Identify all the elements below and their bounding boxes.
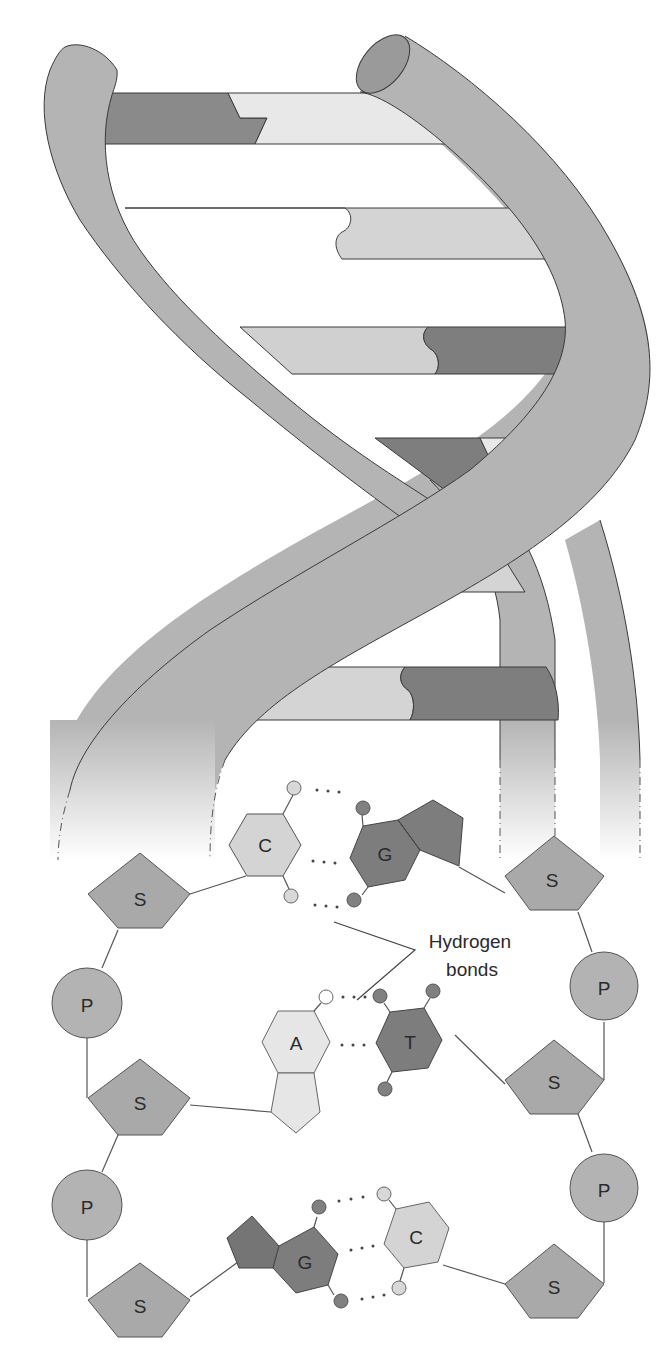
- atom: [319, 990, 333, 1004]
- atom: [426, 984, 440, 998]
- atom: [378, 1082, 392, 1096]
- right-phosphate-1: P: [570, 952, 638, 1020]
- atom: [356, 801, 370, 815]
- hydrogen-bonds: [312, 789, 341, 909]
- atom: [347, 893, 361, 907]
- left-phosphate-2: P: [52, 1170, 122, 1240]
- atom: [373, 989, 387, 1003]
- base-label-a: A: [290, 1033, 303, 1054]
- base-label-c: C: [258, 835, 272, 856]
- right-phosphate-2: P: [570, 1154, 638, 1222]
- base-label-g: G: [298, 1252, 313, 1273]
- sugar-label: S: [548, 1277, 561, 1298]
- phosphate-label: P: [598, 1180, 611, 1201]
- base-pair-3: G C: [227, 1187, 449, 1308]
- phosphate-label: P: [81, 995, 94, 1016]
- sugar-label: S: [546, 870, 559, 891]
- right-sugar-3: S: [505, 1244, 604, 1318]
- rung-2: [125, 208, 560, 259]
- right-sugar-2: S: [505, 1040, 604, 1114]
- base-label-g: G: [378, 844, 393, 865]
- sugar-label: S: [548, 1072, 561, 1093]
- left-sugar-2: S: [88, 1059, 190, 1135]
- base-pair-1: C G: [229, 781, 463, 909]
- callout-line-1: Hydrogen: [429, 931, 511, 952]
- callout-line-2: bonds: [446, 959, 498, 980]
- front-strand-fade: [50, 720, 215, 865]
- atom: [284, 889, 298, 903]
- atom: [392, 1281, 406, 1295]
- phosphate-label: P: [81, 1197, 94, 1218]
- right-outer-strand: [565, 520, 640, 860]
- base-label-t: T: [404, 1032, 416, 1053]
- sugar-label: S: [134, 1296, 147, 1317]
- base-pair-2: A T: [262, 984, 442, 1133]
- hydrogen-bonds: [341, 996, 367, 1047]
- sugar-label: S: [134, 889, 147, 910]
- sugar-label: S: [134, 1093, 147, 1114]
- callout-pointer: [334, 922, 415, 1000]
- left-sugar-3: S: [88, 1263, 190, 1337]
- left-phosphate-1: P: [52, 968, 122, 1038]
- atom: [377, 1187, 391, 1201]
- phosphate-label: P: [598, 978, 611, 999]
- atom: [312, 1200, 326, 1214]
- hydrogen-bonds: [338, 1196, 386, 1301]
- base-label-c: C: [409, 1227, 423, 1248]
- hydrogen-bonds-callout: Hydrogen bonds: [334, 922, 511, 1000]
- atom: [334, 1294, 348, 1308]
- dna-diagram: S P S P S S P S P S C: [0, 0, 665, 1347]
- atom: [287, 781, 301, 795]
- rung-3: [240, 327, 579, 374]
